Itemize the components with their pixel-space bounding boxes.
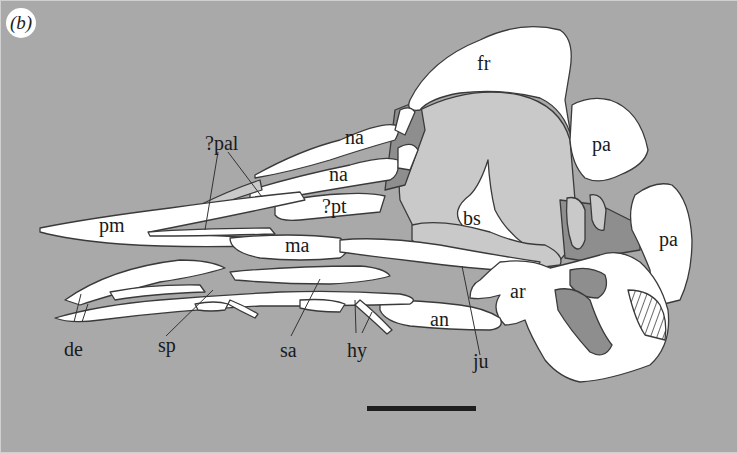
label-frontal: fr	[477, 53, 490, 73]
label-maxilla: ma	[285, 235, 309, 255]
label-pterygoid: ?pt	[322, 196, 346, 216]
panel-label: (b)	[6, 8, 36, 38]
label-surangular: sa	[280, 340, 297, 360]
scale-bar	[367, 406, 476, 411]
label-articular: ar	[510, 281, 526, 301]
label-basisphenoid: bs	[463, 208, 481, 228]
label-splenial: sp	[158, 335, 176, 355]
label-nasal-lower: na	[329, 164, 348, 184]
label-parietal-upper: pa	[592, 134, 611, 154]
label-parietal-lower: pa	[659, 229, 678, 249]
label-angular: an	[430, 309, 449, 329]
label-hyoid: hy	[347, 340, 367, 360]
skull-diagram-figure: (b) fr pa pa na na ?pal ?pt bs pm ma ar …	[0, 0, 738, 453]
label-jugal: ju	[473, 351, 489, 371]
label-premaxilla: pm	[99, 215, 125, 235]
label-dentary: de	[64, 339, 83, 359]
label-palatine: ?pal	[205, 133, 238, 153]
label-nasal-upper: na	[345, 127, 364, 147]
